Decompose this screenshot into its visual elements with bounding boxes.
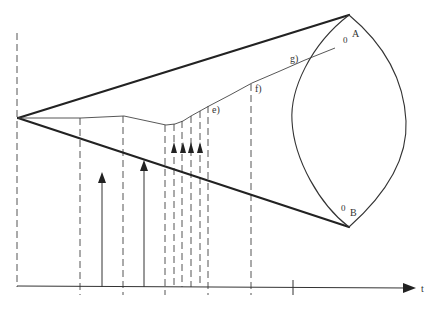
label-e: e)	[212, 104, 220, 116]
short-arrowhead-icon	[180, 142, 186, 153]
trajectory-curve	[18, 48, 335, 125]
axis-line	[17, 286, 408, 288]
axis-arrow-icon	[403, 283, 416, 293]
lens-shape	[292, 15, 406, 227]
label-b-prefix: 0	[341, 203, 346, 213]
label-g: g)	[290, 53, 298, 65]
label-vertex-b: B	[350, 207, 357, 218]
label-f: f)	[255, 83, 262, 95]
label-vertex-a: A	[352, 28, 360, 39]
cone-lower-edge	[18, 118, 349, 227]
cone-upper-edge	[18, 15, 349, 118]
short-arrowhead-icon	[171, 142, 177, 153]
dashed-guides	[17, 33, 251, 295]
time-axis: t	[17, 280, 424, 295]
short-arrowhead-icon	[188, 142, 194, 153]
label-a-prefix: 0	[343, 35, 348, 45]
short-arrowhead-icon	[197, 142, 203, 153]
arrowhead-icon	[98, 172, 106, 183]
arrows	[98, 142, 203, 287]
axis-label-t: t	[421, 283, 424, 294]
cone-lens-diagram: t e) f) g) 0 A 0 B	[0, 0, 435, 309]
arrowhead-icon	[140, 160, 148, 171]
